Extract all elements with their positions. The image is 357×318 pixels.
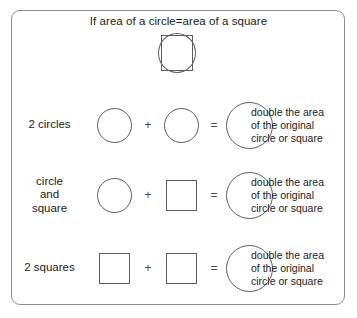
- operand-right-slot: [156, 180, 206, 211]
- inscribed-circle-square-figure: [158, 33, 198, 75]
- circle-shape: [97, 178, 132, 213]
- operand-left-slot: [88, 108, 140, 143]
- area-equivalence-diagram: If area of a circle=area of a square 2 c…: [0, 0, 357, 318]
- equals-operator: =: [206, 261, 222, 275]
- plus-operator: +: [140, 261, 156, 275]
- equals-operator: =: [206, 188, 222, 202]
- circle-shape: [158, 33, 196, 73]
- plus-operator: +: [140, 118, 156, 132]
- operand-right-slot: [156, 108, 206, 143]
- row-label: circle and square: [11, 175, 88, 216]
- equation-shapes: + =: [88, 245, 243, 292]
- operand-left-slot: [88, 178, 140, 213]
- circle-shape: [164, 108, 199, 143]
- equation-shapes: + =: [88, 172, 243, 219]
- operand-right-slot: [156, 253, 206, 284]
- equals-operator: =: [206, 118, 222, 132]
- square-shape: [99, 253, 130, 284]
- equation-row: 2 squares + = double the area of the ori…: [11, 238, 345, 298]
- plus-operator: +: [140, 188, 156, 202]
- equation-row: circle and square + = double the area of…: [11, 165, 345, 225]
- result-description: double the area of the original circle o…: [251, 176, 341, 215]
- square-shape: [166, 253, 197, 284]
- square-shape: [166, 180, 197, 211]
- result-description: double the area of the original circle o…: [251, 249, 341, 288]
- row-label: 2 circles: [11, 118, 88, 132]
- circle-shape: [97, 108, 132, 143]
- equation-shapes: + =: [88, 102, 243, 149]
- row-label: 2 squares: [11, 261, 88, 275]
- page-title: If area of a circle=area of a square: [0, 15, 357, 27]
- result-description: double the area of the original circle o…: [251, 106, 341, 145]
- equation-row: 2 circles + = double the area of the ori…: [11, 95, 345, 155]
- operand-left-slot: [88, 253, 140, 284]
